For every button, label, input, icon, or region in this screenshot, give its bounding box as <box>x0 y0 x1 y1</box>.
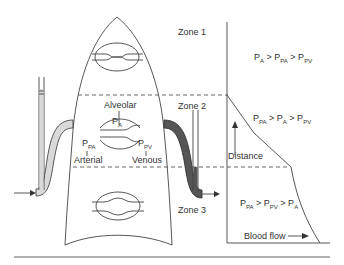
zone2-relation: PPA > PA > PPV <box>253 113 311 125</box>
arterial-tube <box>14 77 73 196</box>
venous-label: Venous <box>132 155 163 165</box>
zone3-relation: PPA > PPV > PA <box>240 198 298 210</box>
lung-outline <box>65 17 172 245</box>
venous-tube <box>164 110 220 198</box>
pa-label: PA <box>112 116 122 128</box>
zone2-capillary-icon <box>100 111 140 149</box>
arterial-label: Arterial <box>74 155 103 165</box>
ppv-label: PPV <box>138 138 152 150</box>
zone3-label: Zone 3 <box>178 205 206 215</box>
alveolar-label: Alveolar <box>104 100 137 110</box>
distance-label: Distance <box>228 151 263 161</box>
blood-flow-arrow-icon <box>302 233 309 239</box>
zone3-capillary-icon <box>92 192 144 220</box>
zone1-label: Zone 1 <box>178 27 206 37</box>
zone1-capillary-icon <box>92 43 143 71</box>
ppa-label: PPA <box>82 138 96 150</box>
west-zones-diagram: Alveolar PA PPA Arterial PPV Venous Zone… <box>0 0 344 265</box>
blood-flow-label: Blood flow <box>244 231 286 241</box>
zone2-label: Zone 2 <box>178 101 206 111</box>
zone1-relation: PA > PPA > PPV <box>254 52 312 64</box>
distance-arrow-icon <box>232 121 238 128</box>
